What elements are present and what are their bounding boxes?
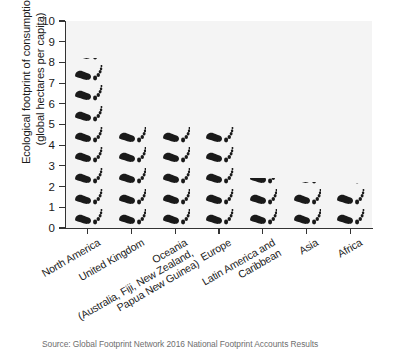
- footprint-icon: [73, 106, 102, 122]
- x-axis-tick: [306, 229, 307, 234]
- footprint-unit: [289, 187, 324, 208]
- y-axis-tick: 5: [59, 124, 65, 125]
- bar: [289, 182, 324, 228]
- x-axis-tick: [262, 229, 263, 234]
- footprint-icon: [73, 65, 102, 81]
- footprint-unit: [245, 207, 280, 228]
- y-axis-tick-label: 7: [49, 77, 55, 89]
- footprint-unit: [289, 182, 324, 186]
- footprint-icon: [161, 147, 190, 163]
- footprint-unit: [70, 187, 105, 208]
- footprint-unit: [158, 127, 193, 146]
- footprint-unit: [245, 178, 280, 186]
- footprint-icon: [161, 209, 190, 225]
- footprint-icon: [73, 147, 102, 163]
- ecological-footprint-chart: Ecological footprint of consumption (glo…: [0, 0, 396, 350]
- footprint-icon: [73, 168, 102, 184]
- footprint-unit: [70, 125, 105, 146]
- y-axis-line: [65, 21, 66, 229]
- footprint-unit: [202, 145, 237, 166]
- footprint-unit: [245, 187, 280, 208]
- x-axis-tick: [131, 229, 132, 234]
- x-axis-tick: [175, 229, 176, 234]
- y-axis-tick-label: 5: [49, 118, 55, 130]
- footprint-icon: [161, 127, 190, 143]
- footprint-icon: [248, 209, 277, 225]
- footprint-unit: [158, 207, 193, 228]
- footprint-icon: [292, 182, 321, 184]
- y-axis-title-line-2: (global hectares per capita): [33, 0, 47, 189]
- footprint-unit: [70, 58, 105, 62]
- footprint-unit: [158, 187, 193, 208]
- footprint-unit: [70, 83, 105, 104]
- y-axis-tick: 1: [59, 207, 65, 208]
- footprint-unit: [114, 166, 149, 187]
- footprint-unit: [114, 207, 149, 228]
- footprint-unit: [202, 207, 237, 228]
- footprint-icon: [204, 127, 233, 143]
- footprint-unit: [202, 187, 237, 208]
- y-axis-tick-label: 9: [49, 36, 55, 48]
- footprint-icon: [73, 85, 102, 101]
- footprint-unit: [114, 187, 149, 208]
- footprint-icon: [292, 209, 321, 225]
- source-note: Source: Global Footprint Network 2016 Na…: [42, 339, 318, 349]
- footprint-icon: [204, 168, 233, 184]
- footprint-unit: [70, 166, 105, 187]
- footprint-icon: [73, 189, 102, 205]
- footprint-icon: [248, 178, 277, 184]
- y-axis-tick: 6: [59, 103, 65, 104]
- x-axis-tick: [218, 229, 219, 234]
- footprint-unit: [70, 207, 105, 228]
- footprint-unit: [202, 127, 237, 146]
- footprint-icon: [117, 189, 146, 205]
- footprint-icon: [248, 189, 277, 205]
- footprint-icon: [335, 209, 364, 225]
- footprint-icon: [292, 189, 321, 205]
- y-axis-tick-label: 3: [49, 160, 55, 172]
- x-axis-tick: [350, 229, 351, 234]
- y-axis-tick-label: 2: [49, 181, 55, 193]
- bar: [70, 58, 105, 228]
- footprint-icon: [204, 189, 233, 205]
- bar: [333, 183, 368, 228]
- bar: [202, 127, 237, 228]
- y-axis-title: Ecological footprint of consumption (glo…: [19, 0, 49, 189]
- y-axis-tick: 10: [59, 20, 65, 21]
- footprint-unit: [333, 207, 368, 228]
- y-axis-tick-label: 10: [42, 15, 55, 27]
- footprint-unit: [70, 62, 105, 83]
- footprint-icon: [117, 168, 146, 184]
- footprint-unit: [202, 166, 237, 187]
- bar: [114, 127, 149, 228]
- footprint-icon: [73, 127, 102, 143]
- footprint-unit: [70, 104, 105, 125]
- y-axis-tick-label: 0: [49, 222, 55, 234]
- y-axis-title-line-1: Ecological footprint of consumption: [19, 0, 33, 189]
- footprint-unit: [70, 145, 105, 166]
- footprint-unit: [114, 127, 149, 146]
- y-axis-tick: 9: [59, 41, 65, 42]
- footprint-icon: [73, 209, 102, 225]
- bar: [158, 127, 193, 228]
- bar: [245, 178, 280, 228]
- y-axis-tick-label: 6: [49, 98, 55, 110]
- footprint-icon: [73, 58, 102, 60]
- footprint-unit: [333, 183, 368, 186]
- footprint-icon: [117, 147, 146, 163]
- footprint-icon: [204, 147, 233, 163]
- footprint-unit: [333, 187, 368, 208]
- footprint-icon: [117, 127, 146, 143]
- footprint-icon: [161, 189, 190, 205]
- footprint-unit: [158, 166, 193, 187]
- y-axis-tick: 4: [59, 145, 65, 146]
- footprint-icon: [161, 168, 190, 184]
- footprint-unit: [289, 207, 324, 228]
- y-axis-tick-label: 4: [49, 139, 55, 151]
- y-axis-tick-label: 1: [49, 201, 55, 213]
- footprint-icon: [335, 183, 364, 184]
- footprint-icon: [204, 209, 233, 225]
- y-axis-tick-label: 8: [49, 56, 55, 68]
- footprint-icon: [117, 209, 146, 225]
- y-axis-tick: 7: [59, 83, 65, 84]
